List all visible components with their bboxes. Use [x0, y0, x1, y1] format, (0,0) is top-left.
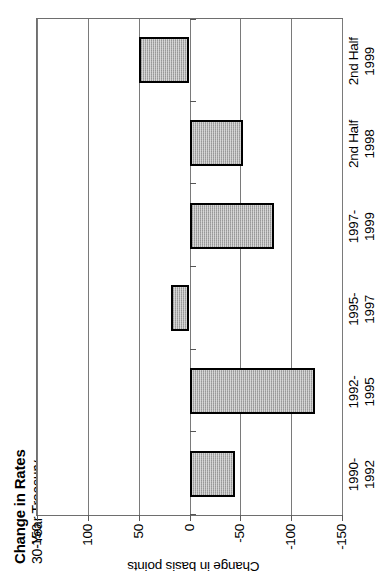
category-label-line: 1992-: [346, 375, 361, 408]
gridline-100: [88, 19, 89, 515]
y-tick-mark-100: [88, 515, 89, 521]
category-label-line: 1997-: [346, 210, 361, 243]
category-label: 1997-1999: [346, 210, 378, 243]
category-label: 1992-1995: [346, 375, 378, 408]
category-label-line: 1999: [362, 210, 378, 243]
y-tick-label: -150: [334, 524, 349, 550]
chart-figure: Change in Rates 30-Year Treasury Change …: [0, 0, 387, 582]
category-label-line: 1995: [362, 375, 378, 408]
category-label: 1990-1992: [346, 458, 378, 491]
category-label-line: 1998: [362, 120, 378, 168]
y-axis-tick-labels: -150-100-50050100150: [36, 520, 343, 560]
gridline--50: [240, 19, 241, 515]
category-tick: [190, 19, 196, 20]
y-tick-label: -100: [283, 524, 298, 550]
y-tick-label: 150: [29, 524, 44, 546]
category-tick: [190, 431, 196, 432]
category-label-line: 1995-: [346, 293, 361, 326]
y-tick-label: 100: [79, 524, 94, 546]
bar: [171, 285, 189, 331]
y-tick-mark--50: [240, 515, 241, 521]
plot-area: [36, 18, 343, 516]
y-tick-label: 50: [130, 524, 145, 538]
category-label-line: 2nd Half: [346, 37, 361, 85]
y-tick-mark--150: [342, 515, 343, 521]
category-label-line: 1997: [362, 293, 378, 326]
gridline-150: [37, 19, 38, 515]
bar: [190, 368, 315, 414]
gridline--150: [342, 19, 343, 515]
category-label-line: 1990-: [346, 458, 361, 491]
bar: [139, 37, 190, 83]
bar: [190, 451, 236, 497]
y-tick-label: 0: [181, 524, 196, 531]
rotated-figure-container: Change in Rates 30-Year Treasury Change …: [0, 0, 387, 582]
y-tick-mark-0: [190, 515, 191, 521]
bar: [190, 203, 274, 249]
category-label: 1995-1997: [346, 293, 378, 326]
category-tick: [190, 183, 196, 184]
y-tick-mark-50: [139, 515, 140, 521]
category-tick: [190, 266, 196, 267]
gridline--100: [291, 19, 292, 515]
category-label-line: 1992: [362, 458, 378, 491]
category-label-line: 1999: [362, 37, 378, 85]
category-label-line: 2nd Half: [346, 120, 361, 168]
chart-title: Change in Rates: [12, 334, 29, 564]
category-tick: [190, 101, 196, 102]
bar: [190, 120, 244, 166]
category-tick: [190, 514, 196, 515]
category-label: 2nd Half1998: [346, 120, 378, 168]
chart-page: Change in Rates 30-Year Treasury Change …: [0, 0, 387, 582]
y-axis-title-text: Change in basis points: [127, 559, 259, 574]
y-tick-mark--100: [291, 515, 292, 521]
gridline-0: [190, 19, 191, 515]
category-tick: [190, 349, 196, 350]
x-axis-category-labels: 1990-19921992-19951995-19971997-19992nd …: [346, 18, 386, 516]
category-label: 2nd Half1999: [346, 37, 378, 85]
gridline-50: [139, 19, 140, 515]
y-tick-label: -50: [232, 524, 247, 543]
y-tick-mark-150: [37, 515, 38, 521]
y-axis-title: Change in basis points: [0, 558, 387, 576]
